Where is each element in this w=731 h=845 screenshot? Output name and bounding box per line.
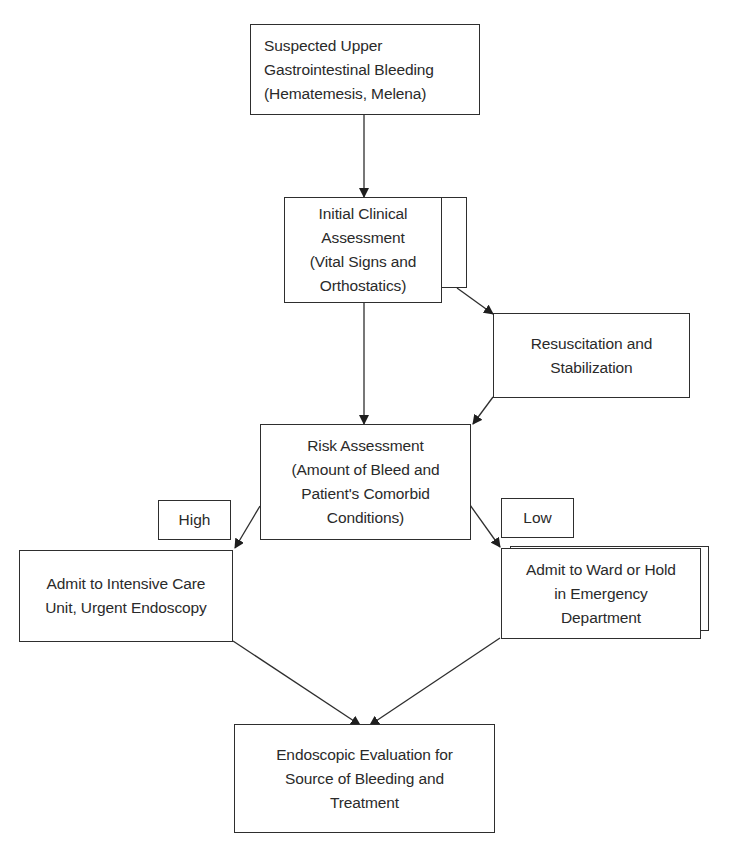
node-initial-clinical-assessment: Initial Clinical Assessment (Vital Signs…	[284, 197, 442, 303]
node-text-line: Assessment	[321, 226, 404, 250]
node-text-line: Treatment	[330, 791, 399, 815]
node-risk-assessment: Risk Assessment (Amount of Bleed and Pat…	[260, 424, 471, 540]
node-text-line: Admit to Intensive Care	[47, 572, 206, 596]
arrow-initial-to-resuscitation	[457, 288, 493, 314]
branch-label-low: Low	[501, 498, 574, 538]
arrow-resuscitation-to-risk	[473, 397, 493, 424]
node-text-line: Department	[561, 606, 641, 630]
arrow-risk-to-icu	[235, 506, 260, 548]
branch-label-high-text: High	[179, 511, 211, 529]
branch-label-high: High	[158, 500, 231, 540]
arrow-risk-to-ward	[470, 505, 500, 547]
node-text-line: Stabilization	[550, 356, 632, 380]
arrow-icu-to-endoscopic	[233, 641, 360, 725]
node-text-line: in Emergency	[554, 582, 648, 606]
node-resuscitation-stabilization: Resuscitation and Stabilization	[493, 313, 690, 398]
node-suspected-ugi-bleeding: Suspected Upper Gastrointestinal Bleedin…	[250, 24, 480, 115]
node-text-line: Admit to Ward or Hold	[526, 558, 676, 582]
node-text-line: Gastrointestinal Bleeding	[264, 58, 434, 82]
node-text-line: Risk Assessment	[307, 434, 424, 458]
node-admit-ward-or-ed: Admit to Ward or Hold in Emergency Depar…	[501, 548, 701, 639]
node-text-line: Initial Clinical	[319, 202, 408, 226]
node-text-line: Source of Bleeding and	[285, 767, 444, 791]
node-text-line: (Vital Signs and	[310, 250, 417, 274]
branch-label-low-text: Low	[523, 509, 551, 527]
flowchart-canvas: Suspected Upper Gastrointestinal Bleedin…	[0, 0, 731, 845]
node-text-line: (Hematemesis, Melena)	[264, 82, 426, 106]
node-endoscopic-evaluation: Endoscopic Evaluation for Source of Blee…	[234, 724, 495, 833]
arrow-ward-to-endoscopic	[370, 638, 500, 725]
node-text-line: Conditions)	[327, 506, 404, 530]
node-text-line: Resuscitation and	[531, 332, 653, 356]
node-initial-assessment-tab	[440, 197, 467, 288]
node-text-line: Orthostatics)	[320, 274, 407, 298]
node-admit-icu: Admit to Intensive Care Unit, Urgent End…	[19, 550, 233, 642]
connector-layer	[0, 0, 731, 845]
node-text-line: Unit, Urgent Endoscopy	[45, 596, 207, 620]
node-text-line: (Amount of Bleed and	[292, 458, 440, 482]
node-text-line: Suspected Upper	[264, 34, 382, 58]
node-text-line: Endoscopic Evaluation for	[276, 743, 453, 767]
node-text-line: Patient's Comorbid	[301, 482, 430, 506]
